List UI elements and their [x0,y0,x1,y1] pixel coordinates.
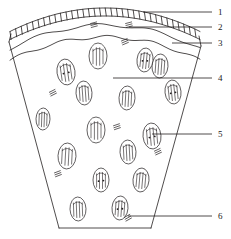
fiber-group [54,171,62,177]
vascular-bundle [55,58,76,86]
vascular-bundle [132,167,150,192]
vascular-bundle [136,47,154,73]
cross-section-drawing [0,0,231,239]
epidermis-cell-wall [77,10,78,18]
vascular-bundle [75,80,93,105]
epidermis-outer-line [10,8,200,32]
label-3: 3 [218,39,223,48]
epidermis-cell-wall [122,9,123,17]
vascular-bundle [89,43,107,69]
label-4: 4 [218,74,223,83]
epidermis-cell-wall [60,13,61,21]
epidermis-cell-wall [27,24,28,32]
fiber-group [90,22,98,28]
epidermis-cell-wall [111,8,112,16]
label-6: 6 [218,212,223,221]
epidermis-cell-wall [178,22,179,30]
epidermis-cell-wall [150,13,151,21]
label-2: 2 [218,23,223,32]
epidermis-cell-wall [32,22,33,30]
epidermis-cell-wall [100,8,101,16]
epidermis-cell-wall [105,8,106,16]
epidermis-cell-wall [195,29,196,37]
vascular-bundle [36,108,51,130]
fiber-group [121,38,129,45]
epidermis-cell-wall [139,11,140,19]
epidermis-cell-wall [83,9,84,17]
vascular-bundle [119,140,136,165]
epidermis-cell-wall [16,29,17,37]
epidermis-cell-wall [161,16,162,24]
epidermis-cell-wall [94,8,95,16]
epidermis-cell-wall [172,20,173,28]
epidermis-cell-wall [49,16,50,24]
vascular-bundle [164,79,182,105]
epidermis-cell-wall [55,15,56,23]
epidermis-cell-wall [133,10,134,18]
epidermis-cell-wall [116,8,117,16]
outline-right-corner [199,36,201,46]
epidermis-cell-wall [44,18,45,26]
epidermis-cell-wall [184,24,185,32]
epidermis-cell-wall [38,20,39,28]
epidermis-cell-wall [128,9,129,17]
label-1: 1 [218,8,223,17]
vascular-bundle [70,197,87,222]
fiber-group [113,124,121,130]
epidermis-cell-wall [21,26,22,34]
outline-left-edge [9,42,59,228]
vascular-bundle [111,195,129,220]
vascular-bundle [151,53,169,78]
vascular-bundle [142,122,162,149]
epidermis-cell-wall [167,18,168,26]
epidermis-cell-wall [72,11,73,19]
label-5: 5 [218,130,223,139]
vascular-bundle [87,117,105,143]
fiber-group [154,148,162,155]
epidermis-cell-wall [88,9,89,17]
epidermis-cell-wall [156,15,157,23]
figure-container: 1 2 3 4 5 6 [0,0,231,239]
epidermis-cell-wall [66,12,67,20]
fiber-group [49,89,57,96]
epidermis-cell-wall [189,26,190,34]
vascular-bundle [118,86,135,111]
vascular-bundle [57,143,76,170]
vascular-bundle [93,168,109,192]
epidermis-cell-wall [144,12,145,20]
